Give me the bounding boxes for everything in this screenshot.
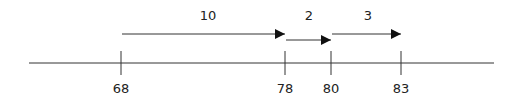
tick-label: 68 (113, 81, 130, 96)
jump-arrow-3: 3 (332, 8, 401, 34)
jump-arrow-10: 10 (122, 8, 285, 34)
tick-78: 78 (277, 51, 294, 96)
jump-label: 2 (305, 8, 313, 23)
tick-68: 68 (113, 51, 130, 96)
jump-label: 10 (200, 8, 217, 23)
tick-label: 83 (393, 81, 410, 96)
number-line-diagram: 68 78 80 83 10 2 3 (0, 0, 517, 101)
tick-80: 80 (323, 51, 340, 96)
jump-label: 3 (364, 8, 372, 23)
jump-arrow-2: 2 (286, 8, 331, 40)
tick-label: 78 (277, 81, 294, 96)
tick-83: 83 (393, 51, 410, 96)
tick-label: 80 (323, 81, 340, 96)
